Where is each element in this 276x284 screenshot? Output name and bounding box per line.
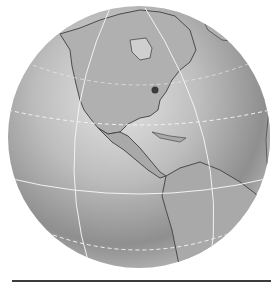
globe [8,6,276,280]
location-dot [152,87,159,94]
globe-illustration [0,0,276,284]
